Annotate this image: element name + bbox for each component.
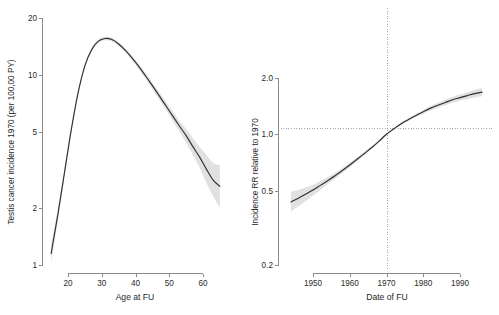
left-y-tick-label-1: 1 [32,261,37,270]
left-x-tick-label-20: 20 [63,279,73,288]
right-y-tick-label-1.0: 1.0 [262,130,274,139]
right-y-axis: 0.20.51.02.0 [262,74,279,270]
right-panel: 0.20.51.02.0 19501960197019801990 Incide… [251,8,494,302]
right-y-tick-group: 0.20.51.02.0 [262,74,279,270]
right-x-axis-title: Date of FU [366,292,408,302]
left-y-tick-label-10: 10 [28,71,38,80]
left-y-tick-label-20: 20 [28,14,38,23]
figure-container: 1251020 2030405060 Testis cancer inciden… [0,0,499,315]
left-x-tick-label-50: 50 [165,279,175,288]
left-x-tick-label-60: 60 [198,279,208,288]
left-x-tick-label-30: 30 [97,279,107,288]
right-y-tick-label-2.0: 2.0 [262,74,274,83]
right-y-axis-title: Incidence RR relative to 1970 [251,118,260,226]
right-x-tick-label-1980: 1980 [414,279,433,288]
right-x-tick-label-1970: 1970 [377,279,396,288]
right-rr-curve [291,92,482,202]
left-y-tick-group: 1251020 [28,14,43,270]
left-x-axis-title: Age at FU [116,292,155,302]
left-y-axis-title: Testis cancer incidence 1970 (per 100,00… [7,59,16,224]
right-x-tick-group: 19501960197019801990 [304,274,470,289]
figure-svg: 1251020 2030405060 Testis cancer inciden… [0,0,499,315]
right-x-axis: 19501960197019801990 [304,274,470,289]
right-x-tick-label-1990: 1990 [451,279,470,288]
right-x-tick-label-1960: 1960 [341,279,360,288]
left-y-tick-label-5: 5 [32,128,37,137]
left-y-axis: 1251020 [28,14,43,270]
left-panel: 1251020 2030405060 Testis cancer inciden… [7,14,220,302]
left-x-axis: 2030405060 [63,274,208,289]
right-confidence-band [291,88,482,212]
right-y-tick-label-0.5: 0.5 [262,187,274,196]
left-x-tick-label-40: 40 [131,279,141,288]
left-y-tick-label-2: 2 [32,204,37,213]
right-y-tick-label-0.2: 0.2 [262,261,274,270]
right-x-tick-label-1950: 1950 [304,279,323,288]
left-x-tick-group: 2030405060 [63,274,208,289]
